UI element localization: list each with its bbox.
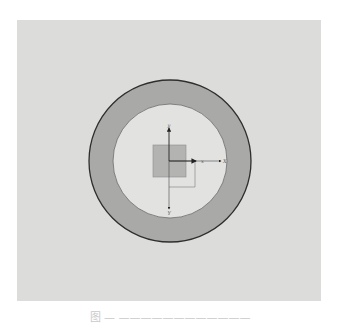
- figure-caption: 图 — ————————————: [40, 311, 300, 325]
- global-x-label: X: [222, 158, 227, 164]
- local-x-label: x: [201, 158, 204, 164]
- local-y-label: y: [167, 122, 171, 129]
